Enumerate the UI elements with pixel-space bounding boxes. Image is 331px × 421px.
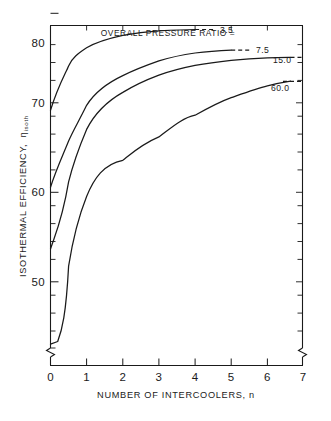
curve-series-60-0: [51, 81, 291, 344]
series-label-7-5: 7.5: [256, 45, 269, 55]
data-curves: [51, 30, 291, 345]
axis-break-left-icon: [47, 348, 55, 357]
x-axis-tick-labels: 0 1 2 3 4 5 6 7: [47, 371, 306, 383]
y-tick-label-50: 50: [32, 276, 45, 288]
y-tick-label-70: 70: [32, 97, 45, 109]
curve-series-15-0: [51, 57, 291, 249]
x-tick-label-1: 1: [83, 371, 90, 383]
y-tick-label-80: 80: [32, 37, 45, 49]
right-axis-ticks: [296, 45, 303, 331]
y-axis-title: ISOTHERMAL EFFICIENCY, ηisoth: [18, 115, 29, 277]
x-tick-label-0: 0: [47, 371, 54, 383]
x-axis-title: NUMBER OF INTERCOOLERS, n: [97, 390, 255, 400]
x-tick-label-2: 2: [119, 371, 126, 383]
isothermal-efficiency-chart: 0 1 2 3 4 5 6 7: [0, 0, 331, 421]
x-tick-label-3: 3: [156, 371, 163, 383]
y-axis-title-subscript: isoth: [22, 115, 29, 132]
figure-container: 0 1 2 3 4 5 6 7: [0, 0, 331, 421]
x-tick-label-5: 5: [228, 371, 235, 383]
series-label-60-0: 60.0: [271, 83, 289, 93]
chart-title: OVERALL PRESSURE RATIO =: [101, 28, 235, 38]
series-label-15-0: 15.0: [273, 55, 291, 65]
x-tick-label-4: 4: [192, 371, 199, 383]
svg-text:ISOTHERMAL EFFICIENCY,: ISOTHERMAL EFFICIENCY, ηisoth: [18, 115, 29, 277]
x-tick-label-6: 6: [264, 371, 271, 383]
plot-frame: [50, 26, 303, 366]
x-tick-label-7: 7: [300, 371, 307, 383]
y-axis-minor-ticks: [51, 45, 56, 348]
curve-series-7-5: [51, 50, 232, 187]
y-axis-title-text: ISOTHERMAL EFFICIENCY,: [18, 144, 28, 277]
axis-break-right-icon: [299, 348, 307, 357]
x-axis-ticks: [51, 359, 303, 366]
y-axis-tick-labels: 50 60 70 80: [32, 37, 45, 288]
y-tick-label-60: 60: [32, 186, 45, 198]
